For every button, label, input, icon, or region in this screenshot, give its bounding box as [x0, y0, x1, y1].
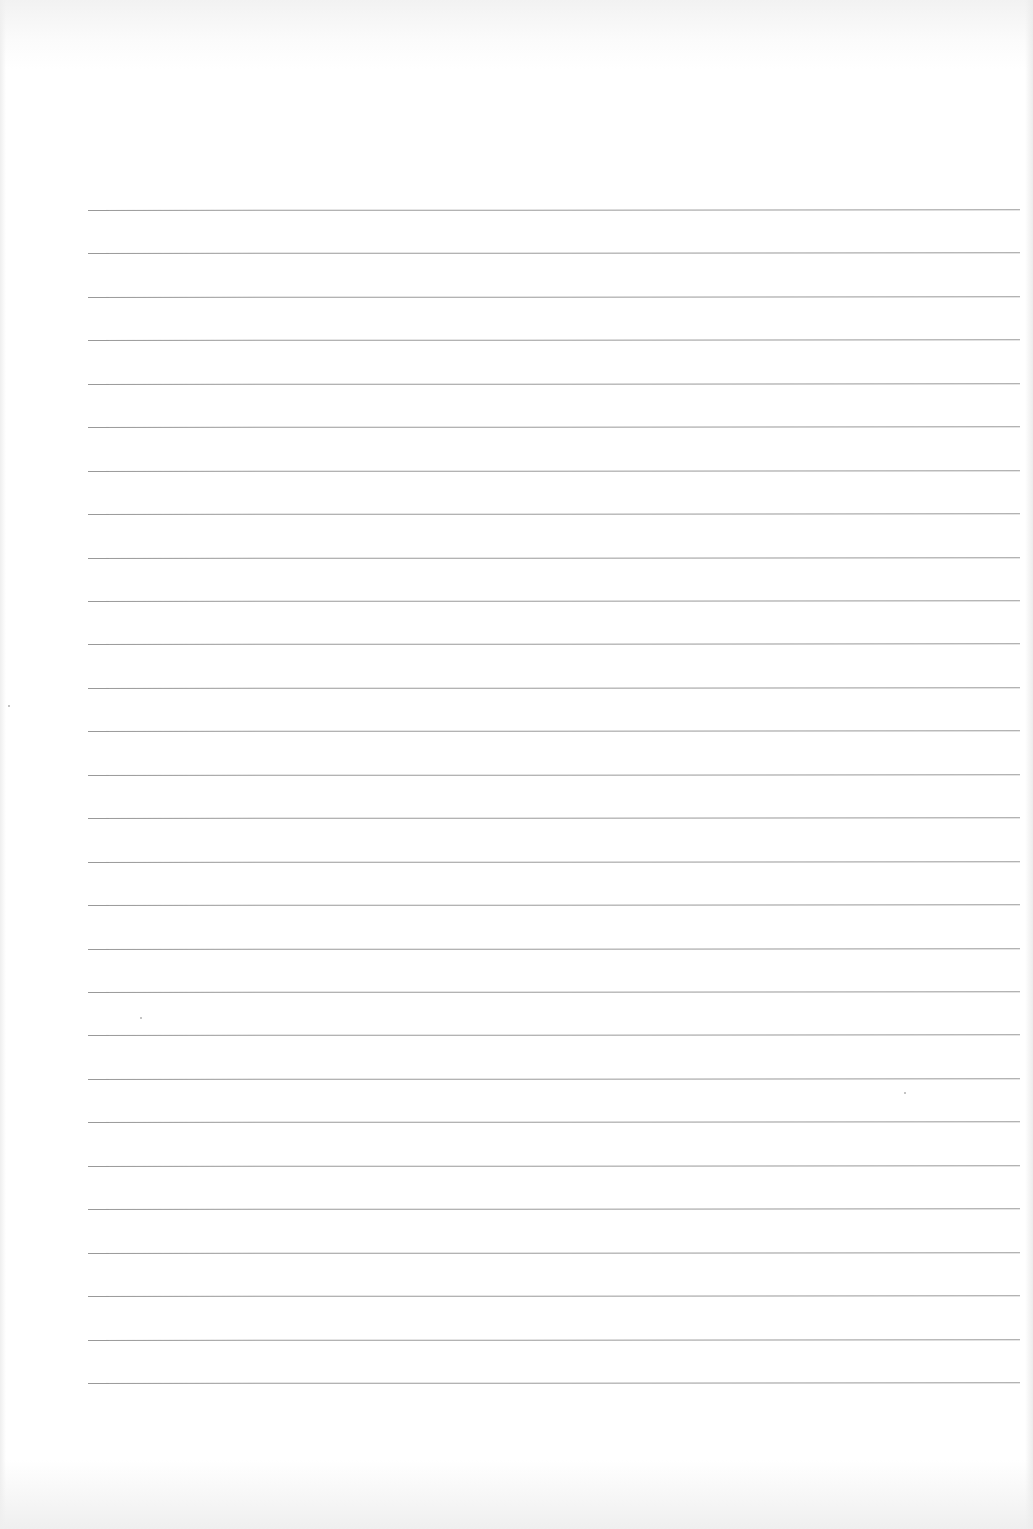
- ruled-line: [88, 948, 1020, 950]
- ruled-line: [88, 817, 1020, 819]
- ruled-line: [88, 339, 1020, 341]
- ruled-line: [88, 426, 1020, 428]
- ruled-line: [88, 1295, 1020, 1297]
- ruled-line: [88, 774, 1020, 776]
- ruled-line: [88, 991, 1020, 993]
- ruled-line: [88, 513, 1020, 515]
- ruled-line: [88, 1165, 1020, 1167]
- ruled-line: [88, 383, 1020, 385]
- ruled-line: [88, 1078, 1020, 1080]
- paper-speck: [8, 705, 10, 707]
- paper-speck: [904, 1092, 906, 1094]
- ruled-line: [88, 861, 1020, 863]
- ruled-line: [88, 557, 1020, 559]
- ruled-line: [88, 1034, 1020, 1036]
- page-left-edge-shadow: [0, 0, 6, 1529]
- ruled-line: [88, 730, 1020, 732]
- ruled-line: [88, 1121, 1020, 1123]
- ruled-line: [88, 470, 1020, 472]
- ruled-line: [88, 252, 1020, 254]
- page-right-edge-shadow: [1025, 0, 1033, 1529]
- ruled-line: [88, 1382, 1020, 1384]
- paper-speck: [140, 1017, 142, 1019]
- ruled-line: [88, 1208, 1020, 1210]
- ruled-line: [88, 1339, 1020, 1341]
- ruled-line: [88, 904, 1020, 906]
- ruled-line: [88, 687, 1020, 689]
- ruled-line: [88, 209, 1020, 211]
- ruled-line: [88, 643, 1020, 645]
- ruled-line: [88, 1252, 1020, 1254]
- lined-paper-page: [0, 0, 1033, 1529]
- ruled-line: [88, 296, 1020, 298]
- ruled-line: [88, 600, 1020, 602]
